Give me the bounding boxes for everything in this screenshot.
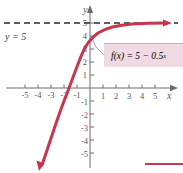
function-label-text: f(x) = 5 − 0.5: [111, 51, 163, 61]
x-tick-label: -5: [21, 90, 28, 100]
x-tick-label: 5: [153, 91, 157, 101]
coordinate-plane: -5 -4 -3 -2 -1 1 2 3 4 5 5 4 3 2 1 -1 -2…: [0, 0, 183, 173]
x-tick-label: -1: [73, 90, 80, 100]
y-axis-arrow: [87, 5, 93, 13]
x-tick-labels: -5 -4 -3 -2 -1 1 2 3 4 5: [21, 90, 157, 101]
y-tick-label: 2: [83, 57, 87, 67]
x-tick-label: 3: [127, 91, 131, 101]
y-tick-label: -1: [81, 97, 88, 107]
leader-line: [92, 38, 104, 55]
y-tick-label: -5: [81, 149, 88, 159]
bottom-rule: [145, 163, 183, 165]
function-label-box: f(x) = 5 − 0.5x: [104, 43, 183, 67]
x-tick-label: 1: [101, 91, 105, 101]
x-axis-label: x: [166, 90, 172, 101]
y-tick-label: 4: [83, 31, 88, 41]
curve-arrow-right: [163, 20, 172, 27]
y-tick-label: 1: [83, 70, 87, 80]
y-axis-label: y: [82, 4, 88, 15]
asymptote-label: y = 5: [4, 31, 26, 42]
y-tick-label: -2: [81, 110, 88, 120]
axes: [6, 5, 178, 168]
x-tick-label: -3: [47, 90, 54, 100]
y-tick-label: -4: [81, 136, 89, 146]
graph-figure: -5 -4 -3 -2 -1 1 2 3 4 5 5 4 3 2 1 -1 -2…: [0, 0, 183, 173]
function-label-exponent: x: [163, 52, 166, 59]
x-tick-label: 2: [114, 91, 118, 101]
y-tick-label: -3: [81, 123, 88, 133]
x-tick-label: 4: [140, 91, 145, 101]
x-tick-label: -4: [34, 90, 42, 100]
